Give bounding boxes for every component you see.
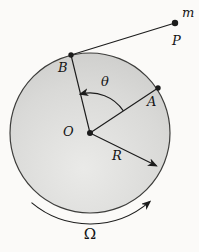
center-label: O: [63, 124, 74, 139]
point-b-label: B: [57, 60, 68, 75]
point-a-dot: [155, 85, 160, 90]
point-p-label: P: [171, 33, 181, 48]
omega-label: Ω: [84, 225, 96, 243]
line-b-to-p: [71, 23, 175, 55]
point-a-label: A: [146, 94, 156, 109]
mass-point-dot: [172, 20, 178, 26]
point-b-dot: [68, 52, 73, 57]
rotating-disk-figure: m P B θ A O R Ω: [0, 0, 199, 252]
center-point-dot: [87, 130, 93, 136]
mass-label: m: [182, 5, 194, 20]
theta-label: θ: [101, 74, 109, 89]
figure-canvas: m P B θ A O R Ω: [0, 0, 199, 252]
radius-label: R: [111, 148, 122, 163]
